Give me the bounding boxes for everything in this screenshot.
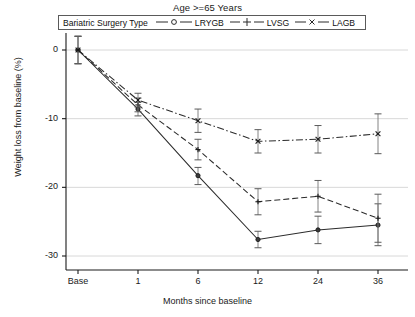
plot-area [0,0,415,317]
x-axis-label: Months since baseline [0,296,415,306]
chart-figure: Age >=65 Years Bariatric Surgery Type LR… [0,0,415,317]
x-tick-label: Base [55,276,101,286]
x-tick-label: 1 [115,276,161,286]
x-tick-label: 24 [295,276,341,286]
x-tick-label: 6 [175,276,221,286]
y-tick-label: -20 [22,181,58,191]
y-tick-label: -30 [22,250,58,260]
x-tick-label: 12 [235,276,281,286]
y-tick-label: 0 [22,44,58,54]
x-tick-label: 36 [355,276,401,286]
y-tick-label: -10 [22,113,58,123]
